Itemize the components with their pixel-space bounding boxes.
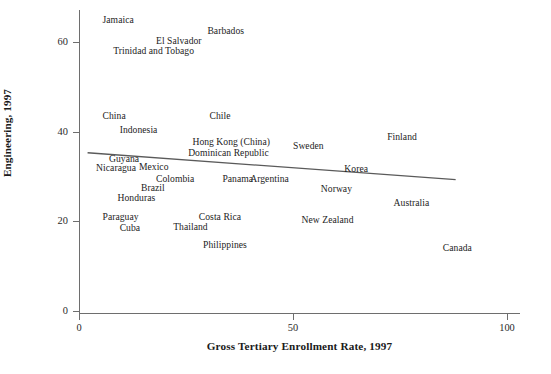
- data-point-label: Costa Rica: [199, 212, 241, 222]
- data-point-label: Korea: [344, 164, 368, 174]
- data-point-label: Sweden: [293, 141, 324, 151]
- data-point-label: Colombia: [156, 174, 194, 184]
- data-point-label: Barbados: [207, 26, 244, 36]
- y-tick-label: 0: [44, 305, 68, 316]
- data-point-label: Jamaica: [103, 15, 134, 25]
- x-tick-mark: [79, 314, 80, 320]
- y-tick-mark: [73, 311, 79, 312]
- y-tick-label: 40: [44, 126, 68, 137]
- x-axis-title: Gross Tertiary Enrollment Rate, 1997: [79, 340, 520, 352]
- data-point-label: Norway: [321, 184, 352, 194]
- plot-area: JamaicaBarbadosEl SalvadorTrinidad and T…: [0, 0, 551, 374]
- x-tick-label: 100: [487, 322, 527, 333]
- data-point-label: Argentina: [250, 174, 289, 184]
- scatter-plot-figure: Percentage of Tertiary Students in Scien…: [0, 0, 551, 374]
- y-tick-mark: [73, 132, 79, 133]
- trend-line: [0, 0, 551, 374]
- data-point-label: Trinidad and Tobago: [113, 46, 194, 56]
- data-point-label: Panama: [222, 174, 253, 184]
- data-point-label: Thailand: [173, 222, 208, 232]
- data-point-label: Dominican Republic: [188, 148, 269, 158]
- data-point-label: Nicaragua: [96, 163, 136, 173]
- data-point-label: Guyana: [109, 154, 139, 164]
- data-point-label: Indonesia: [120, 125, 158, 135]
- data-point-label: El Salvador: [156, 36, 202, 46]
- data-point-label: Brazil: [141, 183, 165, 193]
- data-point-label: Chile: [210, 111, 231, 121]
- data-point-label: Cuba: [120, 223, 140, 233]
- data-point-label: Philippines: [203, 240, 247, 250]
- y-tick-mark: [73, 42, 79, 43]
- y-tick-label: 60: [44, 36, 68, 47]
- x-tick-label: 50: [273, 322, 313, 333]
- y-axis-line: [79, 10, 80, 314]
- y-axis-title: Percentage of Tertiary Students in Scien…: [0, 0, 22, 278]
- data-point-label: Finland: [387, 132, 417, 142]
- data-point-label: China: [103, 111, 126, 121]
- y-tick-label: 20: [44, 215, 68, 226]
- x-tick-label: 0: [59, 322, 99, 333]
- x-tick-mark: [507, 314, 508, 320]
- data-point-label: Mexico: [139, 162, 169, 172]
- data-point-label: New Zealand: [302, 215, 354, 225]
- data-point-label: Honduras: [118, 193, 156, 203]
- x-axis-line: [79, 313, 520, 314]
- data-point-label: Hong Kong (China): [192, 137, 270, 147]
- data-point-label: Canada: [443, 243, 472, 253]
- data-point-label: Australia: [394, 198, 430, 208]
- data-point-label: Paraguay: [103, 212, 139, 222]
- x-tick-mark: [293, 314, 294, 320]
- y-tick-mark: [73, 221, 79, 222]
